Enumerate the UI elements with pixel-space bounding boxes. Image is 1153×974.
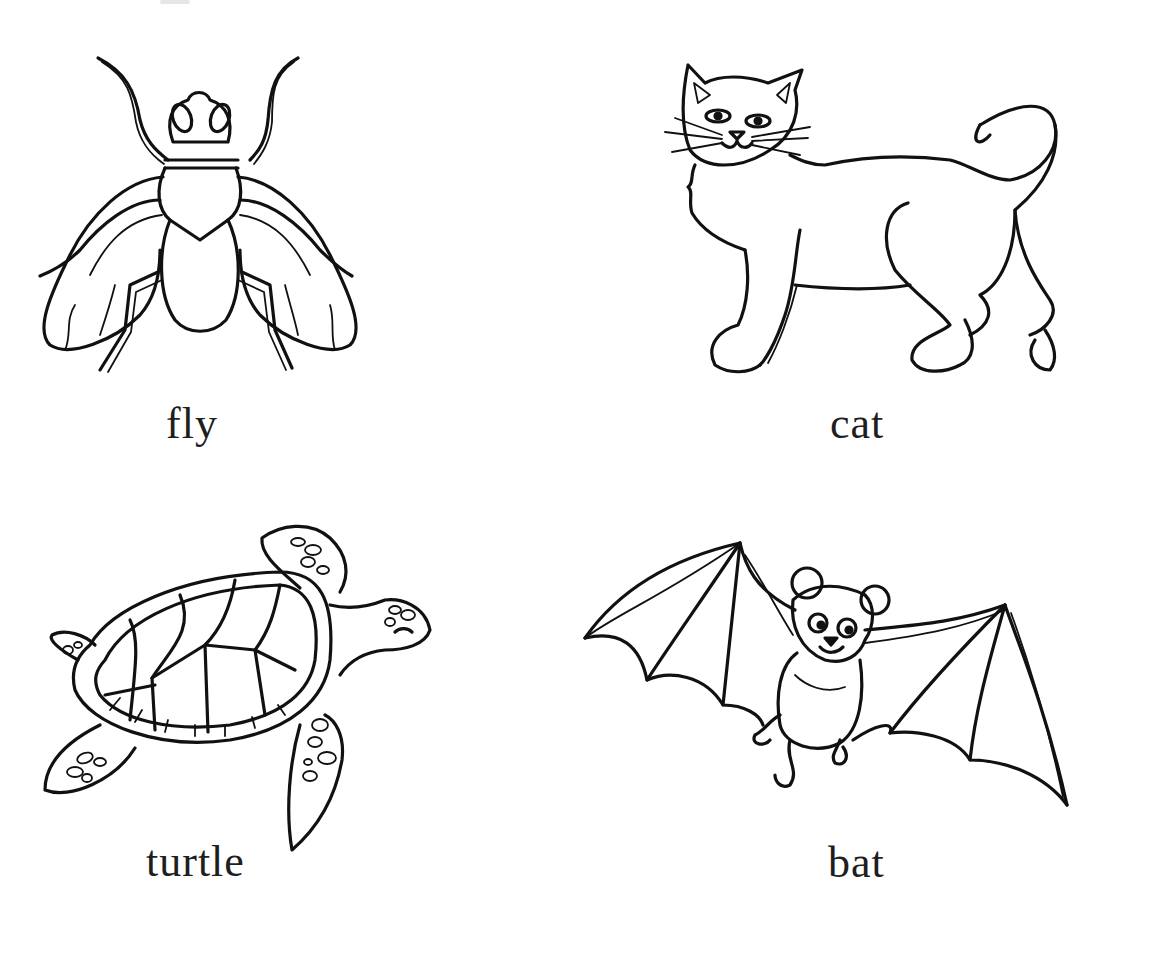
card-fly: fly (30, 50, 390, 390)
bat-drawing (575, 535, 1145, 825)
fly-drawing (30, 50, 390, 380)
label-bat: bat (828, 841, 885, 885)
card-turtle: turtle (30, 510, 450, 890)
card-bat: bat (575, 535, 1145, 895)
turtle-drawing (30, 510, 450, 860)
label-turtle: turtle (146, 840, 245, 884)
cat-drawing (660, 55, 1080, 390)
cropped-heading-remnant (160, 0, 190, 4)
card-cat: cat (660, 55, 1080, 450)
label-fly: fly (166, 402, 218, 446)
label-cat: cat (830, 402, 884, 446)
